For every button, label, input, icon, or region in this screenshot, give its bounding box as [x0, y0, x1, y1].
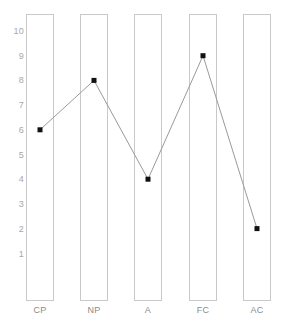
- y-tick-label: 1: [0, 249, 24, 259]
- x-tick-label-ac: AC: [243, 305, 271, 316]
- y-tick-label: 7: [0, 100, 24, 110]
- chart-caption: [0, 318, 283, 327]
- plot-area: 10 9 8 7 6 5 4 3 2 1 CP NP A FC AC: [0, 0, 283, 327]
- x-tick-label-np: NP: [80, 305, 108, 316]
- y-tick-label: 10: [0, 26, 24, 36]
- y-tick-label: 9: [0, 51, 24, 61]
- y-tick-label: 8: [0, 75, 24, 85]
- y-tick-label: 5: [0, 150, 24, 160]
- y-axis: 10 9 8 7 6 5 4 3 2 1: [0, 0, 24, 327]
- category-column-ac: [243, 14, 271, 301]
- y-tick-label: 4: [0, 174, 24, 184]
- category-column-a: [134, 14, 162, 301]
- category-column-fc: [189, 14, 217, 301]
- category-column-np: [80, 14, 108, 301]
- x-tick-label-a: A: [134, 305, 162, 316]
- y-tick-label: 2: [0, 224, 24, 234]
- y-tick-label: 6: [0, 125, 24, 135]
- egogram-chart: 10 9 8 7 6 5 4 3 2 1 CP NP A FC AC: [0, 0, 283, 327]
- x-tick-label-cp: CP: [26, 305, 54, 316]
- x-tick-label-fc: FC: [189, 305, 217, 316]
- y-tick-label: 3: [0, 199, 24, 209]
- category-column-cp: [26, 14, 54, 301]
